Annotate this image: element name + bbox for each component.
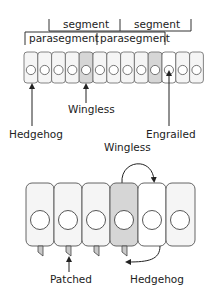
hedgehog-signal-arrow	[128, 246, 160, 262]
wingless-signal-arrow	[122, 164, 154, 183]
bottom-cell-row	[26, 183, 195, 246]
patched-label: Patched	[50, 273, 92, 285]
segmentation-diagram: segment segment parasegment parasegment	[0, 0, 212, 295]
segment-label-2: segment	[134, 18, 180, 30]
receptor-icon	[38, 246, 43, 256]
segment-label-1: segment	[63, 18, 109, 30]
wingless-label: Wingless	[104, 141, 151, 153]
parasegment-label-2: parasegment	[100, 32, 170, 44]
receptor-icon	[94, 246, 99, 256]
engrailed-callout-label: Engrailed	[146, 128, 196, 140]
patched-receptors	[38, 246, 127, 256]
receptor-icon	[66, 246, 71, 256]
parasegment-label-1: parasegment	[29, 32, 99, 44]
hedgehog-callout-label: Hedgehog	[9, 128, 63, 140]
wingless-callout-label: Wingless	[68, 103, 115, 115]
hedgehog-label: Hedgehog	[130, 273, 184, 285]
receptor-icon	[122, 246, 127, 256]
